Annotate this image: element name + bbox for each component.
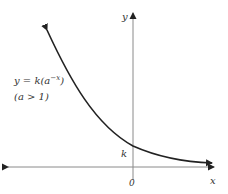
intercept-label: k xyxy=(121,148,127,159)
y-axis-label: y xyxy=(121,11,128,22)
condition-label: (a > 1) xyxy=(14,91,49,102)
equation-exponent: −x xyxy=(50,74,60,82)
equation-prefix: y = k(a xyxy=(13,75,50,86)
equation-label: y = k(a−x) xyxy=(13,74,64,86)
x-axis-label: x xyxy=(210,175,216,186)
equation-suffix: ) xyxy=(59,75,64,86)
exponential-graph: y x 0 k y = k(a−x) (a > 1) xyxy=(0,0,228,194)
exponential-curve xyxy=(47,30,212,163)
origin-label: 0 xyxy=(129,178,135,188)
